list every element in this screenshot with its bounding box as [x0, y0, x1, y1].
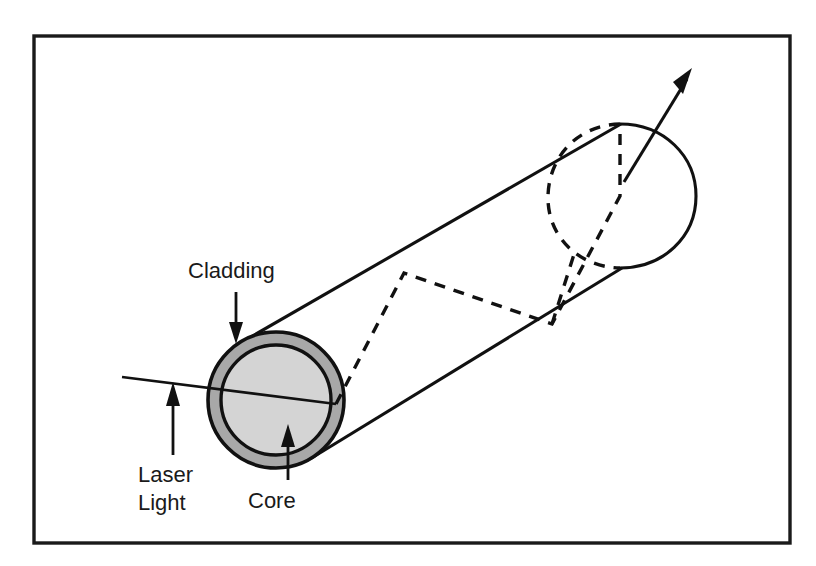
figure-root: Optical fiber cross-section and light pr… [0, 0, 816, 566]
fiber-optic-diagram: Optical fiber cross-section and light pr… [0, 0, 816, 566]
laser-light-label-line2: Light [138, 490, 186, 515]
laser-light-arrowhead [166, 382, 180, 406]
cylinder-top-edge [242, 124, 621, 342]
laser-light-label-line1: Laser [138, 462, 193, 487]
exit-beam-shaft [624, 79, 687, 182]
core-label: Core [248, 488, 296, 513]
cladding-label: Cladding [188, 258, 275, 283]
fiber-body [208, 124, 696, 468]
far-face-visible-arc [620, 124, 696, 268]
laser-light-callout: Laser Light [138, 382, 193, 515]
exit-beam-arrowhead [673, 68, 692, 94]
